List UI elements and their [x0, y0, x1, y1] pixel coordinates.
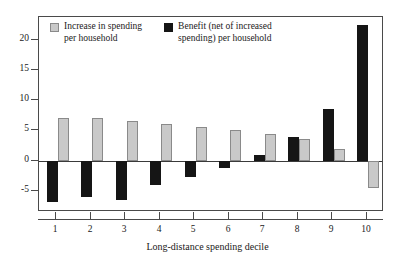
bar-increase-in-spending-decile-8 — [299, 139, 310, 161]
bar-increase-in-spending-decile-1 — [58, 118, 69, 160]
x-axis-tick-label: 5 — [181, 224, 205, 235]
y-axis-tick — [31, 160, 38, 161]
plot-frame — [38, 16, 383, 211]
legend-item-benefit-net: Benefit (net of increased spending) per … — [164, 21, 272, 44]
bar-benefit-net-decile-4 — [150, 161, 161, 185]
y-axis-tick-label: 15 — [1, 64, 29, 74]
bar-increase-in-spending-decile-9 — [334, 149, 345, 160]
x-axis-tick-label: 10 — [354, 224, 378, 235]
bar-benefit-net-decile-8 — [288, 137, 299, 161]
bar-increase-in-spending-decile-4 — [161, 124, 172, 161]
legend-item-increase-in-spending: Increase in spending per household — [50, 21, 142, 44]
x-axis-tick — [262, 212, 263, 219]
x-axis-tick-label: 3 — [112, 224, 136, 235]
x-axis-tick — [297, 212, 298, 219]
y-axis-tick-label: 0 — [1, 155, 29, 165]
bar-increase-in-spending-decile-3 — [127, 121, 138, 161]
bar-increase-in-spending-decile-2 — [92, 118, 103, 160]
legend-label-benefit-net: Benefit (net of increased spending) per … — [178, 21, 272, 44]
x-axis-tick-label: 6 — [216, 224, 240, 235]
x-axis-tick — [228, 212, 229, 219]
chart-root: -505101520 12345678910 Long-distance spe… — [0, 0, 415, 262]
bar-benefit-net-decile-2 — [81, 161, 92, 197]
x-axis-tick-label: 2 — [78, 224, 102, 235]
bar-increase-in-spending-decile-7 — [265, 134, 276, 161]
x-axis-tick — [193, 212, 194, 219]
x-axis-tick-label: 7 — [250, 224, 274, 235]
chart-legend: Increase in spending per household Benef… — [50, 21, 272, 44]
y-axis-tick — [31, 129, 38, 130]
y-axis-tick — [31, 39, 38, 40]
y-axis-tick — [31, 69, 38, 70]
legend-swatch-grey-icon — [50, 23, 59, 32]
bar-increase-in-spending-decile-10 — [368, 161, 379, 188]
y-axis-tick-label: -5 — [1, 185, 29, 195]
bar-benefit-net-decile-10 — [357, 25, 368, 161]
x-axis-title: Long-distance spending decile — [0, 241, 415, 252]
bar-increase-in-spending-decile-5 — [196, 127, 207, 161]
y-axis-tick-label: 10 — [1, 94, 29, 104]
bar-benefit-net-decile-7 — [254, 155, 265, 161]
bar-benefit-net-decile-6 — [219, 161, 230, 168]
x-axis-tick — [55, 212, 56, 219]
x-axis-tick-label: 4 — [147, 224, 171, 235]
x-axis-tick — [124, 212, 125, 219]
legend-label-increase-in-spending: Increase in spending per household — [64, 21, 142, 44]
y-axis-tick — [31, 190, 38, 191]
y-axis-tick — [31, 99, 38, 100]
x-axis-tick — [366, 212, 367, 219]
x-axis-tick — [331, 212, 332, 219]
x-axis-line — [38, 219, 383, 220]
y-axis-tick-label: 20 — [1, 34, 29, 44]
bar-benefit-net-decile-5 — [185, 161, 196, 177]
x-axis-tick — [90, 212, 91, 219]
y-axis-tick-label: 5 — [1, 124, 29, 134]
bar-benefit-net-decile-3 — [116, 161, 127, 200]
x-axis-tick-label: 8 — [285, 224, 309, 235]
bar-benefit-net-decile-9 — [323, 109, 334, 160]
plot-area — [39, 17, 382, 210]
x-axis-tick — [159, 212, 160, 219]
x-axis-tick-label: 1 — [43, 224, 67, 235]
legend-swatch-black-icon — [164, 23, 173, 32]
bar-increase-in-spending-decile-6 — [230, 130, 241, 161]
bar-benefit-net-decile-1 — [47, 161, 58, 202]
x-axis-tick-label: 9 — [319, 224, 343, 235]
